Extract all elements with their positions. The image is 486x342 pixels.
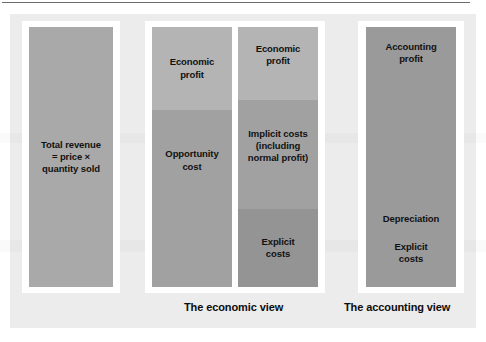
segment-explicit-costs: Explicit costs [238,209,318,287]
segment-label: Depreciation [381,213,441,225]
segment-implicit-costs: Implicit costs (including normal profit) [238,100,318,209]
bar-total-revenue: Total revenue = price × quantity sold [29,27,113,287]
segment-label: Accounting profit [383,41,438,65]
page-trim-rule [2,2,470,3]
bar-accounting-view: Accounting profit Depreciation Explicit … [366,27,456,287]
segment-label: Total revenue = price × quantity sold [39,139,103,175]
segment-opportunity-cost: Opportunity cost [152,110,232,287]
caption-accounting-view: The accounting view [344,301,450,313]
segment-label: Opportunity cost [163,148,220,172]
segment-label: Economic profit [254,43,303,67]
segment-economic-profit: Economic profit [238,27,318,100]
segment-label: Explicit costs [393,241,430,265]
segment-label: Economic profit [168,56,217,80]
figure-root: Total revenue = price × quantity sold Ec… [0,0,486,342]
segment-label: Explicit costs [260,236,297,260]
segment-depreciation: Depreciation [366,204,456,235]
segment-economic-profit: Economic profit [152,27,232,110]
segment-total-revenue: Total revenue = price × quantity sold [29,27,113,287]
segment-explicit-costs: Explicit costs [366,235,456,287]
bar-economic-cost-breakdown: Economic profit Implicit costs (includin… [238,27,318,287]
segment-accounting-profit: Accounting profit [366,27,456,204]
bar-opportunity-cost: Economic profit Opportunity cost [152,27,232,287]
caption-economic-view: The economic view [184,301,283,313]
segment-label: Implicit costs (including normal profit) [246,128,310,164]
